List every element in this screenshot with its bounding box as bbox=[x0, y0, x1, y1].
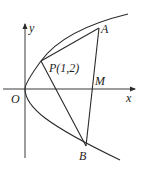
x-axis-label: x bbox=[125, 91, 132, 105]
point-M-label: M bbox=[94, 74, 106, 88]
y-axis-label: y bbox=[28, 21, 35, 35]
point-A-label: A bbox=[100, 22, 109, 36]
parabola-diagram: y x O P(1,2) A M B bbox=[0, 0, 143, 171]
parabola-curve bbox=[25, 14, 128, 160]
origin-label: O bbox=[11, 92, 20, 106]
point-B-label: B bbox=[79, 149, 87, 163]
point-P-label: P(1,2) bbox=[48, 61, 79, 75]
segment-PA bbox=[41, 28, 99, 61]
